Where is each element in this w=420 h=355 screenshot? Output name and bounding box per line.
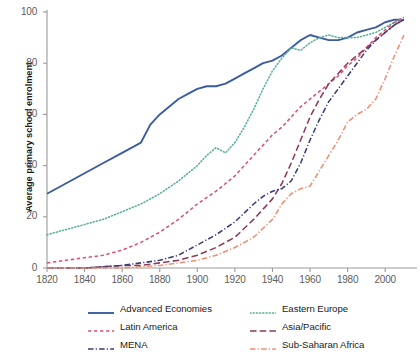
x-tick-label: 1840	[65, 274, 105, 285]
series-line-eastern-europe	[47, 20, 404, 235]
legend-item-label: Sub-Saharan Africa	[282, 339, 364, 350]
x-tick-label: 2000	[365, 274, 405, 285]
x-tick-label: 1820	[27, 274, 67, 285]
x-tick-label: 1920	[215, 274, 255, 285]
legend-line-swatch	[88, 322, 114, 332]
chart-legend: Advanced EconomiesEastern EuropeLatin Am…	[0, 296, 420, 355]
legend-item[interactable]: Advanced Economies	[88, 301, 212, 316]
x-tick-label: 1860	[102, 274, 142, 285]
y-tick-label: 80	[7, 57, 37, 68]
x-tick-label: 1900	[177, 274, 217, 285]
series-line-mena	[47, 20, 404, 268]
series-line-sub-saharan-africa	[47, 35, 404, 268]
y-tick-label: 100	[7, 6, 37, 17]
legend-item-label: Latin America	[120, 321, 177, 332]
legend-line-swatch	[88, 304, 114, 314]
legend-item-label: Advanced Economies	[120, 303, 212, 314]
legend-line-swatch	[88, 340, 114, 350]
legend-item-label: Eastern Europe	[282, 303, 348, 314]
legend-line-swatch	[250, 322, 276, 332]
legend-item[interactable]: Sub-Saharan Africa	[250, 337, 364, 352]
legend-item[interactable]: Eastern Europe	[250, 301, 348, 316]
x-tick-label: 1940	[252, 274, 292, 285]
line-chart-svg	[0, 0, 420, 290]
x-tick-label: 1980	[328, 274, 368, 285]
plot-area: Average primary school enrolment 0204060…	[0, 0, 420, 290]
legend-item[interactable]: Asia/Pacific	[250, 319, 331, 334]
y-tick-label: 40	[7, 159, 37, 170]
legend-line-swatch	[250, 304, 276, 314]
y-tick-label: 60	[7, 108, 37, 119]
legend-item[interactable]: MENA	[88, 337, 148, 352]
y-tick-label: 20	[7, 210, 37, 221]
chart-figure: Average primary school enrolment 0204060…	[0, 0, 420, 355]
series-line-latin-america	[47, 17, 404, 263]
legend-item-label: MENA	[120, 339, 148, 350]
legend-line-swatch	[250, 340, 276, 350]
x-tick-label: 1880	[140, 274, 180, 285]
series-line-advanced-economies	[47, 20, 404, 194]
series-line-asia-pacific	[47, 20, 404, 268]
y-tick-label: 0	[7, 262, 37, 273]
legend-item[interactable]: Latin America	[88, 319, 177, 334]
legend-item-label: Asia/Pacific	[282, 321, 331, 332]
x-tick-label: 1960	[290, 274, 330, 285]
